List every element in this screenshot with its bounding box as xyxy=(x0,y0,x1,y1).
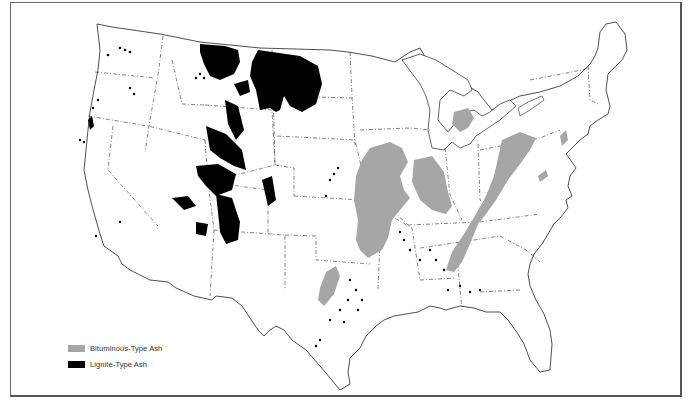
legend-item-bituminous: Bituminous-Type Ash xyxy=(68,340,162,356)
great-lakes xyxy=(402,54,516,150)
lignite-swatch xyxy=(68,361,85,368)
bituminous-swatch xyxy=(68,345,85,352)
legend-label: Lignite-Type Ash xyxy=(90,360,147,369)
state-borders xyxy=(88,36,598,310)
legend-label: Bituminous-Type Ash xyxy=(90,344,162,353)
legend-item-lignite: Lignite-Type Ash xyxy=(68,356,162,372)
map-legend: Bituminous-Type Ash Lignite-Type Ash xyxy=(68,340,162,372)
